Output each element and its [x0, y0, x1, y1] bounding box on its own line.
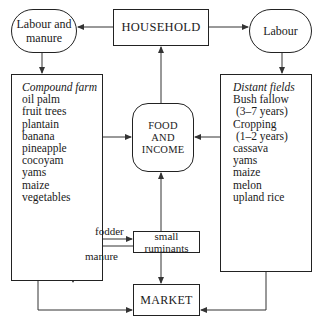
arrow-distant-to-market	[201, 272, 266, 310]
small-ruminants-node: small ruminants	[133, 231, 200, 253]
compound-farm-item: maize	[22, 179, 98, 191]
food-line: FOOD	[148, 120, 177, 132]
fodder-label: fodder	[95, 225, 124, 237]
distant-fields-item: Cropping	[233, 118, 307, 130]
household-label: HOUSEHOLD	[121, 20, 200, 35]
small-ruminants-line2: ruminants	[145, 242, 189, 254]
compound-farm-item: pineapple	[22, 142, 98, 154]
labour-node: Labour	[249, 9, 312, 53]
distant-fields-heading: Distant fields	[233, 81, 307, 93]
distant-fields-item: maize	[233, 166, 307, 178]
distant-fields-item: (1–2 years)	[233, 130, 307, 142]
distant-fields-item: upland rice	[233, 191, 307, 203]
labour-and-manure-node: Labour and manure	[11, 9, 77, 53]
labour-and-manure-line2: manure	[26, 31, 62, 45]
compound-farm-item: yams	[22, 166, 98, 178]
distant-fields-item: melon	[233, 179, 307, 191]
compound-farm-item: fruit trees	[22, 105, 98, 117]
compound-farm-item: cocoyam	[22, 154, 98, 166]
arrow-compound-to-market	[38, 281, 132, 310]
and-line: AND	[151, 132, 174, 144]
compound-farm-item: banana	[22, 130, 98, 142]
manure-label: manure	[85, 250, 118, 262]
distant-fields-item: yams	[233, 154, 307, 166]
food-and-income-node: FOOD AND INCOME	[132, 103, 194, 172]
distant-fields-item: Bush fallow	[233, 93, 307, 105]
compound-farm-item: oil palm	[22, 93, 98, 105]
labour-and-manure-line1: Labour and	[17, 17, 72, 31]
compound-farm-item: vegetables	[22, 191, 98, 203]
household-node: HOUSEHOLD	[113, 9, 209, 46]
compound-farm-item: plantain	[22, 118, 98, 130]
distant-fields-node: Distant fields Bush fallow (3–7 years) C…	[220, 74, 312, 272]
labour-label: Labour	[263, 24, 298, 38]
small-ruminants-line1: small	[155, 230, 179, 242]
market-node: MARKET	[133, 284, 200, 316]
market-label: MARKET	[140, 293, 192, 308]
distant-fields-item: (3–7 years)	[233, 105, 307, 117]
distant-fields-item: cassava	[233, 142, 307, 154]
income-line: INCOME	[142, 144, 185, 156]
compound-farm-heading: Compound farm	[22, 81, 98, 93]
